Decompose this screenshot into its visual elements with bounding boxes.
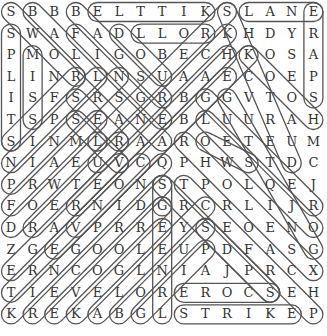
grid-cell[interactable]: S [173,303,195,325]
grid-cell[interactable]: R [86,87,108,109]
grid-cell[interactable]: T [259,87,281,109]
grid-cell[interactable]: A [194,260,216,282]
grid-cell[interactable]: R [194,23,216,45]
grid-cell[interactable]: H [194,152,216,174]
grid-cell[interactable]: V [108,152,130,174]
grid-cell[interactable]: P [173,152,195,174]
grid-cell[interactable]: O [173,23,195,45]
grid-cell[interactable]: B [43,1,65,23]
grid-cell[interactable]: O [108,174,130,196]
grid-cell[interactable]: Y [173,217,195,239]
grid-cell[interactable]: P [302,66,324,88]
grid-cell[interactable]: K [194,1,216,23]
grid-cell[interactable]: E [43,282,65,304]
grid-cell[interactable]: R [22,260,44,282]
grid-cell[interactable]: K [216,23,238,45]
grid-cell[interactable]: O [86,260,108,282]
grid-cell[interactable]: E [43,303,65,325]
grid-cell[interactable]: G [22,239,44,261]
grid-cell[interactable]: P [194,239,216,261]
grid-cell[interactable]: E [259,131,281,153]
grid-cell[interactable]: S [22,109,44,131]
grid-cell[interactable]: I [22,152,44,174]
grid-cell[interactable]: E [216,217,238,239]
grid-cell[interactable]: H [302,282,324,304]
grid-cell[interactable]: R [22,303,44,325]
grid-cell[interactable]: T [151,1,173,23]
grid-cell[interactable]: E [86,282,108,304]
grid-cell[interactable]: L [130,239,152,261]
grid-cell[interactable]: I [22,282,44,304]
grid-cell[interactable]: U [281,131,303,153]
grid-cell[interactable]: L [151,23,173,45]
grid-cell[interactable]: S [281,44,303,66]
grid-cell[interactable]: D [130,195,152,217]
grid-cell[interactable]: B [173,109,195,131]
grid-cell[interactable]: C [194,44,216,66]
grid-cell[interactable]: E [86,174,108,196]
grid-cell[interactable]: H [216,44,238,66]
grid-cell[interactable]: E [281,282,303,304]
grid-cell[interactable]: O [216,174,238,196]
grid-cell[interactable]: E [43,195,65,217]
grid-cell[interactable]: G [130,87,152,109]
grid-cell[interactable]: R [216,303,238,325]
grid-cell[interactable]: Q [151,152,173,174]
grid-cell[interactable]: L [86,66,108,88]
grid-cell[interactable]: E [43,239,65,261]
grid-cell[interactable]: B [108,303,130,325]
grid-cell[interactable]: O [22,195,44,217]
grid-cell[interactable]: F [65,23,87,45]
grid-cell[interactable]: R [302,195,324,217]
grid-cell[interactable]: C [238,66,260,88]
grid-cell[interactable]: K [259,303,281,325]
grid-cell[interactable]: E [86,109,108,131]
grid-cell[interactable]: H [238,23,260,45]
grid-cell[interactable]: A [259,239,281,261]
grid-cell[interactable]: E [302,1,324,23]
grid-cell[interactable]: E [0,260,22,282]
grid-cell[interactable]: D [216,239,238,261]
grid-cell[interactable]: E [65,152,87,174]
grid-cell[interactable]: R [173,131,195,153]
grid-cell[interactable]: P [86,217,108,239]
grid-cell[interactable]: T [238,131,260,153]
grid-cell[interactable]: B [173,87,195,109]
grid-cell[interactable]: I [238,303,260,325]
grid-cell[interactable]: S [216,1,238,23]
grid-cell[interactable]: E [173,282,195,304]
grid-cell[interactable]: S [281,239,303,261]
grid-cell[interactable]: A [43,152,65,174]
grid-cell[interactable]: T [65,174,87,196]
grid-cell[interactable]: T [173,174,195,196]
grid-cell[interactable]: S [0,23,22,45]
grid-cell[interactable]: R [216,195,238,217]
grid-cell[interactable]: A [281,109,303,131]
grid-cell[interactable]: F [0,195,22,217]
grid-cell[interactable]: E [281,303,303,325]
grid-cell[interactable]: O [259,66,281,88]
grid-cell[interactable]: S [0,131,22,153]
grid-cell[interactable]: O [216,282,238,304]
grid-cell[interactable]: R [194,282,216,304]
grid-cell[interactable]: D [108,23,130,45]
grid-cell[interactable]: R [259,109,281,131]
grid-cell[interactable]: I [173,1,195,23]
grid-cell[interactable]: T [130,1,152,23]
grid-cell[interactable]: A [86,303,108,325]
grid-cell[interactable]: Q [259,174,281,196]
grid-cell[interactable]: S [151,174,173,196]
grid-cell[interactable]: O [281,87,303,109]
grid-cell[interactable]: N [43,131,65,153]
grid-cell[interactable]: E [281,66,303,88]
grid-cell[interactable]: P [0,44,22,66]
grid-cell[interactable]: N [43,260,65,282]
grid-cell[interactable]: Y [281,23,303,45]
grid-cell[interactable]: U [216,109,238,131]
grid-cell[interactable]: N [151,260,173,282]
grid-cell[interactable]: L [238,174,260,196]
grid-cell[interactable]: V [65,282,87,304]
grid-cell[interactable]: L [194,109,216,131]
grid-cell[interactable]: G [65,239,87,261]
grid-cell[interactable]: G [216,87,238,109]
